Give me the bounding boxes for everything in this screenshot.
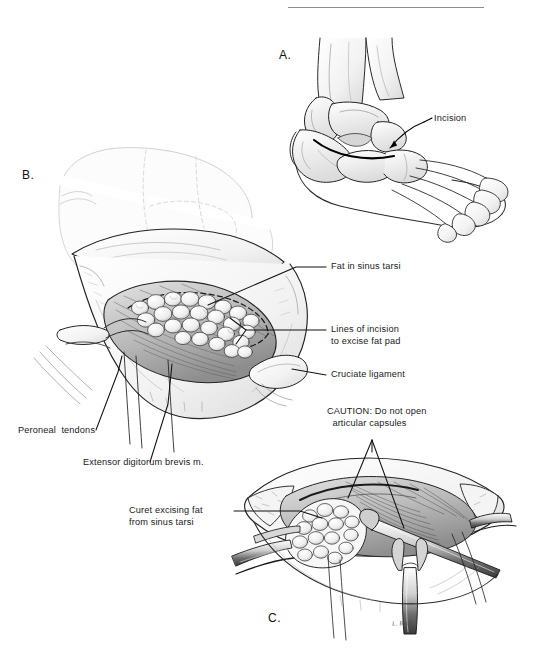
peroneal-tendons: [57, 326, 110, 349]
label-fat-in-sinus-tarsi: Fat in sinus tarsi: [331, 261, 401, 273]
leader-incision: [424, 118, 432, 122]
panel-letter-b: B.: [22, 168, 34, 182]
panel-letter-a: A.: [279, 48, 291, 62]
surgical-artwork: [0, 0, 535, 656]
panel-letter-c: C.: [268, 611, 281, 625]
illustration-plate: A. B. C. Incision Fat in sinus tarsi Lin…: [0, 0, 535, 656]
label-cruciate-ligament: Cruciate ligament: [331, 369, 405, 381]
label-curet-excising-fat: Curet excising fat from sinus tarsi: [129, 505, 203, 528]
panel-b-exposure: [34, 148, 307, 452]
label-peroneal-tendons: Peroneal tendons: [18, 425, 95, 437]
label-incision: Incision: [434, 113, 466, 125]
label-caution-articular-capsules: CAUTION: Do not open articular capsules: [327, 406, 427, 429]
label-extensor-digitorum-brevis: Extensor digitorum brevis m.: [83, 457, 204, 469]
label-lines-of-incision: Lines of incision to excise fat pad: [331, 324, 400, 347]
panel-a-foot: [290, 38, 508, 242]
